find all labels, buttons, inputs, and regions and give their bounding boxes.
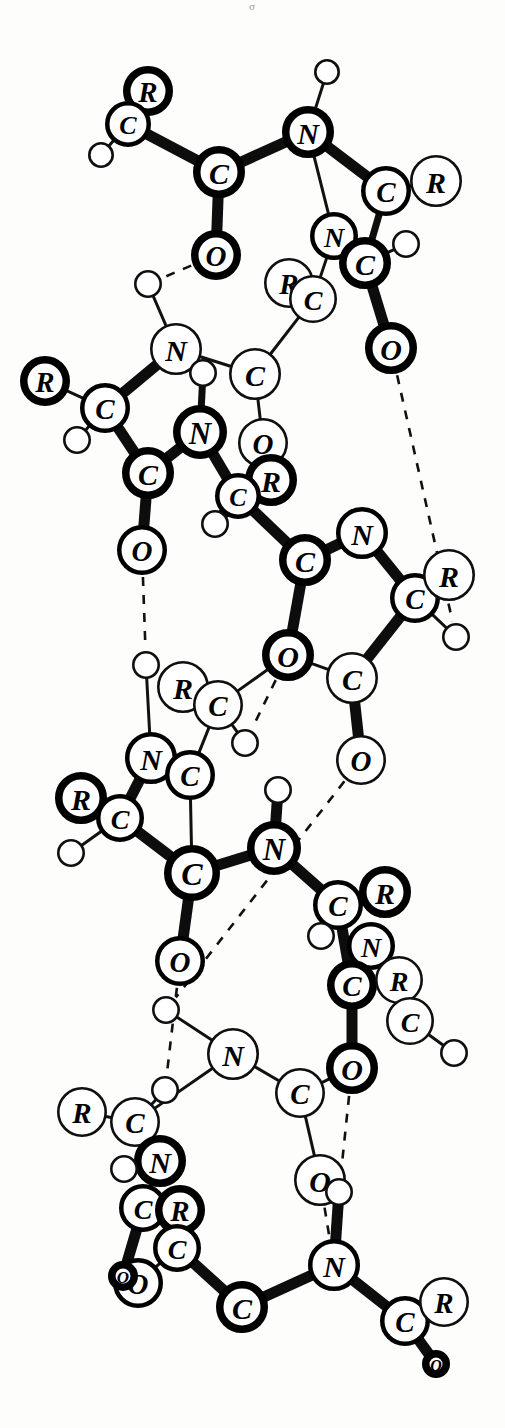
atom-circle xyxy=(168,849,217,898)
atom-circle xyxy=(283,538,328,583)
atom-c: C xyxy=(126,451,171,496)
atom-h xyxy=(64,427,89,452)
atom-circle xyxy=(387,998,432,1043)
atom-n: N xyxy=(138,1139,183,1184)
alpha-helix-diagram: σ RCCONCRNCRCONRCCOCNORCCNCROCORCNCRCCNO… xyxy=(0,0,505,1428)
atom-circle xyxy=(64,427,89,452)
atom-o: O xyxy=(195,234,238,277)
atom-o: O xyxy=(426,1354,447,1375)
atom-o: O xyxy=(337,736,384,783)
atom-circle xyxy=(152,1077,177,1102)
atom-c: C xyxy=(230,349,279,398)
atom-c: C xyxy=(387,998,432,1043)
atom-circle xyxy=(217,475,259,517)
atom-circle xyxy=(133,652,158,677)
atom-circle xyxy=(369,326,414,371)
atom-circle xyxy=(337,736,384,783)
atom-circle xyxy=(290,276,335,321)
atom-h xyxy=(441,1040,466,1065)
atom-circle xyxy=(327,653,376,702)
figure-background xyxy=(0,0,505,1428)
atom-h xyxy=(152,1077,177,1102)
atom-c: C xyxy=(363,168,409,214)
atom-circle xyxy=(424,550,473,599)
atom-c: C xyxy=(82,385,128,431)
atom-circle xyxy=(202,511,227,536)
atom-c: C xyxy=(194,681,241,728)
atom-c: C xyxy=(315,882,361,928)
atom-circle xyxy=(251,825,298,872)
atom-r: R xyxy=(424,550,473,599)
atom-c: C xyxy=(197,150,242,195)
atom-circle xyxy=(190,360,215,385)
atom-circle xyxy=(330,1046,375,1091)
bond-thick xyxy=(336,1204,339,1241)
atom-c: C xyxy=(107,103,149,145)
atom-circle xyxy=(107,103,149,145)
atom-r: R xyxy=(411,156,460,205)
atom-circle xyxy=(232,730,257,755)
bond-thick xyxy=(276,802,277,823)
bond-thick xyxy=(144,497,146,527)
atom-c: C xyxy=(327,653,376,702)
atom-circle xyxy=(393,231,418,256)
atom-c: C xyxy=(168,849,217,898)
atom-circle xyxy=(441,1040,466,1065)
atom-circle xyxy=(310,1241,358,1289)
atom-o: O xyxy=(119,527,165,573)
atom-r: R xyxy=(376,957,421,1002)
atom-circle xyxy=(197,150,242,195)
atom-h xyxy=(111,1156,136,1181)
atom-circle xyxy=(411,156,460,205)
atom-circle xyxy=(194,681,241,728)
atom-h xyxy=(308,923,333,948)
bond-medium xyxy=(201,385,202,407)
atom-n: N xyxy=(310,1241,358,1289)
atom-circle xyxy=(89,143,112,166)
bond-thick xyxy=(183,899,188,938)
atom-r: R xyxy=(363,870,408,915)
atom-h xyxy=(326,1179,351,1204)
atom-circle xyxy=(208,1029,257,1078)
atom-c: C xyxy=(283,538,328,583)
atom-h xyxy=(190,360,215,385)
atom-circle xyxy=(112,1265,135,1288)
atom-circle xyxy=(98,796,142,840)
atom-circle xyxy=(230,349,279,398)
atom-circle xyxy=(326,1179,351,1204)
atom-circle xyxy=(315,60,338,83)
atom-circle xyxy=(153,997,178,1022)
atom-circle xyxy=(343,241,388,286)
atom-circle xyxy=(58,840,83,865)
atom-n: N xyxy=(177,409,224,456)
bond-thin xyxy=(190,798,191,847)
atom-circle xyxy=(363,168,409,214)
atom-c: C xyxy=(331,964,374,1007)
atom-circle xyxy=(135,271,160,296)
atom-h xyxy=(393,231,418,256)
atom-circle xyxy=(426,1354,447,1375)
atom-circle xyxy=(266,633,311,678)
atom-h xyxy=(153,997,178,1022)
atom-h xyxy=(265,777,290,802)
atom-r: R xyxy=(420,1278,467,1325)
atom-circle xyxy=(265,777,290,802)
atom-h xyxy=(58,840,83,865)
atom-h xyxy=(232,730,257,755)
atom-circle xyxy=(155,1226,199,1270)
atom-c: C xyxy=(217,475,259,517)
atom-n: N xyxy=(286,110,331,155)
atom-circle xyxy=(286,110,331,155)
atom-r: R xyxy=(24,360,67,403)
atom-r: R xyxy=(58,1088,105,1135)
atom-circle xyxy=(157,938,203,984)
atom-n: N xyxy=(251,825,298,872)
atom-circle xyxy=(119,527,165,573)
atom-circle xyxy=(220,1285,265,1330)
atom-o: O xyxy=(266,633,311,678)
atom-h xyxy=(315,60,338,83)
atom-o: O xyxy=(112,1265,135,1288)
atom-n: N xyxy=(208,1029,257,1078)
atom-h xyxy=(135,271,160,296)
atom-circle xyxy=(82,385,128,431)
